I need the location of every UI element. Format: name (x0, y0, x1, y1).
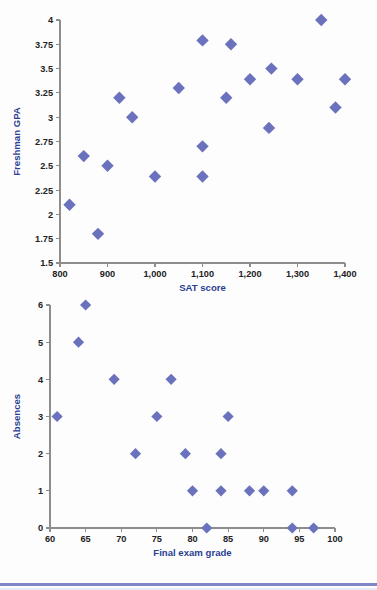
data-point-marker (101, 160, 113, 172)
x-axis-tick-label: 1,000 (144, 269, 167, 279)
y-axis-tick-label: 0 (38, 523, 43, 533)
footer-divider (0, 583, 377, 586)
data-point-marker (126, 111, 138, 123)
y-axis-title: Freshman GPA (11, 107, 22, 176)
data-point-marker (80, 299, 91, 310)
x-axis-tick-label: 65 (81, 534, 91, 544)
data-point-marker (196, 140, 208, 152)
data-point-marker (220, 92, 232, 104)
x-axis-tick-label: 85 (223, 534, 233, 544)
y-axis-tick-label: 2.5 (40, 161, 53, 171)
x-axis-tick-label: 95 (294, 534, 304, 544)
y-axis-tick-label: 1 (38, 486, 43, 496)
y-axis-tick-label: 2 (48, 210, 53, 220)
scatter-plot-canvas-bottom: 01234566065707580859095100Final exam gra… (0, 292, 377, 582)
data-point-marker (263, 122, 275, 134)
data-point-marker (287, 485, 298, 496)
y-axis-tick-label: 3.75 (35, 40, 53, 50)
data-point-marker (187, 485, 198, 496)
scatter-chart-sat-gpa: 1.51.7522.252.52.7533.253.53.7548009001,… (0, 0, 377, 295)
data-point-marker (196, 170, 208, 182)
y-axis-tick-label: 3 (48, 113, 53, 123)
x-axis-tick-label: 1,200 (239, 269, 262, 279)
y-axis-title: Absences (11, 394, 22, 439)
data-point-marker (166, 374, 177, 385)
data-point-marker (225, 38, 237, 50)
x-axis-tick-label: 800 (52, 269, 67, 279)
y-axis-tick-label: 3.5 (40, 64, 53, 74)
x-axis-tick-label: 1,400 (334, 269, 357, 279)
y-axis-tick-label: 4 (48, 15, 54, 25)
y-axis-tick-label: 2.25 (35, 186, 53, 196)
data-point-marker (315, 14, 327, 26)
data-point-marker (291, 73, 303, 85)
data-point-marker (196, 34, 208, 46)
x-axis-tick-label: 80 (187, 534, 197, 544)
data-point-marker (339, 73, 351, 85)
y-axis-tick-label: 1.75 (35, 234, 53, 244)
data-point-marker (63, 198, 75, 210)
data-point-marker (109, 374, 120, 385)
x-axis-tick-label: 90 (259, 534, 269, 544)
data-point-marker (52, 411, 63, 422)
data-point-marker (265, 62, 277, 74)
x-axis-tick-label: 70 (116, 534, 126, 544)
figure-page: 1.51.7522.252.52.7533.253.53.7548009001,… (0, 0, 377, 590)
data-point-marker (201, 522, 212, 533)
data-point-marker (73, 337, 84, 348)
data-point-marker (223, 411, 234, 422)
y-axis-tick-label: 3 (38, 412, 43, 422)
scatter-chart-grade-absences: 01234566065707580859095100Final exam gra… (0, 292, 377, 582)
data-point-marker (113, 92, 125, 104)
x-axis-tick-label: 100 (327, 534, 342, 544)
y-axis-tick-label: 2 (38, 449, 43, 459)
data-point-marker (258, 485, 269, 496)
y-axis-tick-label: 5 (38, 338, 43, 348)
data-point-marker (92, 228, 104, 240)
data-point-marker (244, 73, 256, 85)
x-axis-tick-label: 60 (45, 534, 55, 544)
x-axis-title: Final exam grade (153, 547, 231, 558)
data-point-marker (215, 448, 226, 459)
data-point-marker (287, 522, 298, 533)
data-point-marker (130, 448, 141, 459)
y-axis-tick-label: 3.25 (35, 88, 53, 98)
data-point-marker (308, 522, 319, 533)
x-axis-tick-label: 75 (152, 534, 162, 544)
data-point-marker (78, 150, 90, 162)
data-point-marker (244, 485, 255, 496)
x-axis-tick-label: 1,300 (286, 269, 309, 279)
data-point-marker (215, 485, 226, 496)
data-point-marker (180, 448, 191, 459)
data-point-marker (149, 170, 161, 182)
data-point-marker (173, 82, 185, 94)
x-axis-tick-label: 900 (100, 269, 115, 279)
scatter-plot-canvas-top: 1.51.7522.252.52.7533.253.53.7548009001,… (0, 0, 377, 295)
y-axis-tick-label: 6 (38, 300, 43, 310)
x-axis-tick-label: 1,100 (191, 269, 214, 279)
y-axis-tick-label: 4 (38, 375, 44, 385)
y-axis-tick-label: 1.5 (40, 258, 53, 268)
data-point-marker (329, 101, 341, 113)
data-point-marker (151, 411, 162, 422)
y-axis-tick-label: 2.75 (35, 137, 53, 147)
